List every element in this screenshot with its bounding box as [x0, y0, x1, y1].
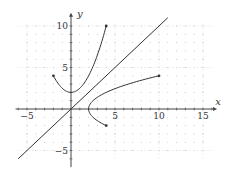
grid-dot — [167, 42, 168, 43]
grid-dot — [35, 42, 36, 43]
grid-dot — [167, 150, 168, 151]
grid-dot — [150, 92, 151, 93]
grid-dot — [132, 142, 133, 143]
grid-dot — [132, 67, 133, 68]
endpoint-marker — [52, 74, 55, 77]
grid-dot — [150, 100, 151, 101]
grid-dot — [158, 142, 159, 143]
endpoint-marker — [158, 74, 161, 77]
grid-dot — [176, 42, 177, 43]
grid-dot — [53, 59, 54, 60]
grid-dot — [88, 125, 89, 126]
grid-dot — [114, 50, 115, 51]
grid-dot — [35, 84, 36, 85]
grid-dot — [44, 42, 45, 43]
grid-dot — [62, 50, 63, 51]
x-axis-label: x — [215, 96, 221, 107]
grid-dot — [185, 92, 186, 93]
grid-dot — [167, 117, 168, 118]
grid-dot — [53, 42, 54, 43]
grid-dot — [202, 50, 203, 51]
grid-dot — [167, 92, 168, 93]
grid-dot — [62, 42, 63, 43]
grid-dot — [35, 75, 36, 76]
grid-dot — [150, 150, 151, 151]
grid-dot — [158, 100, 159, 101]
grid-dot — [106, 100, 107, 101]
grid-dot — [53, 133, 54, 134]
grid-dot — [123, 125, 124, 126]
grid-dot — [44, 142, 45, 143]
grid-dot — [132, 133, 133, 134]
grid-dot — [141, 92, 142, 93]
grid-dot — [194, 125, 195, 126]
grid-dot — [167, 67, 168, 68]
grid-dot — [88, 42, 89, 43]
grid-dot — [53, 100, 54, 101]
grid-dot — [150, 59, 151, 60]
grid-dot — [44, 50, 45, 51]
grid-dot — [141, 100, 142, 101]
grid-dot — [167, 125, 168, 126]
grid-dot — [194, 142, 195, 143]
grid-dot — [97, 75, 98, 76]
x-tick-label: −5 — [20, 111, 34, 121]
grid-dot — [88, 142, 89, 143]
grid-dot — [150, 133, 151, 134]
grid-dot — [97, 50, 98, 51]
grid-dot — [44, 75, 45, 76]
grid-dot — [202, 34, 203, 35]
grid-dot — [167, 142, 168, 143]
grid-dot — [132, 92, 133, 93]
grid-dot — [194, 42, 195, 43]
grid-dot — [176, 50, 177, 51]
grid-dot — [176, 125, 177, 126]
grid-dot — [106, 142, 107, 143]
grid-dot — [97, 142, 98, 143]
grid-dot — [79, 117, 80, 118]
grid-dot — [194, 59, 195, 60]
grid-dot — [79, 150, 80, 151]
grid-dot — [185, 75, 186, 76]
grid-dot — [176, 133, 177, 134]
grid-dot — [44, 125, 45, 126]
grid-dot — [202, 75, 203, 76]
grid-dot — [132, 84, 133, 85]
grid-dot — [79, 50, 80, 51]
grid-dot — [44, 59, 45, 60]
grid-dot — [185, 150, 186, 151]
grid-dot — [35, 133, 36, 134]
grid-dot — [44, 84, 45, 85]
grid-dot — [97, 100, 98, 101]
grid-dot — [26, 100, 27, 101]
grid-dot — [158, 50, 159, 51]
grid-dot — [150, 67, 151, 68]
grid-dot — [88, 34, 89, 35]
grid-dot — [97, 125, 98, 126]
grid-dot — [185, 34, 186, 35]
grid-dot — [26, 34, 27, 35]
grid-dot — [97, 117, 98, 118]
grid-dot — [35, 92, 36, 93]
grid-dot — [132, 100, 133, 101]
grid-dot — [132, 125, 133, 126]
plot-area: −551015105−5xy — [0, 0, 229, 170]
grid-dot — [123, 75, 124, 76]
grid-dot — [79, 67, 80, 68]
grid-dot — [141, 133, 142, 134]
grid-dot — [106, 84, 107, 85]
grid-dot — [185, 84, 186, 85]
grid-dot — [62, 100, 63, 101]
grid-dot — [114, 142, 115, 143]
grid-dot — [141, 75, 142, 76]
grid-dot — [202, 100, 203, 101]
grid-dot — [176, 75, 177, 76]
grid-dot — [123, 117, 124, 118]
grid-dot — [97, 133, 98, 134]
grid-dot — [26, 75, 27, 76]
y-tick-label: 5 — [62, 63, 68, 73]
grid-dot — [88, 133, 89, 134]
grid-dot — [194, 50, 195, 51]
grid-dot — [106, 59, 107, 60]
grid-dot — [88, 59, 89, 60]
